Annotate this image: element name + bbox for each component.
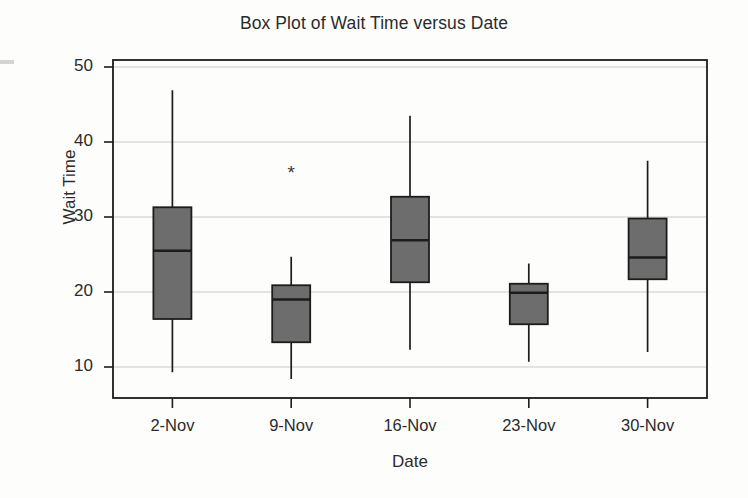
box-rect — [272, 285, 310, 342]
x-tick-label: 23-Nov — [473, 416, 585, 435]
y-axis-title: Wait Time — [60, 112, 80, 262]
box-plot-item — [629, 161, 667, 352]
box-plot-item — [391, 116, 429, 350]
x-tick-label: 2-Nov — [116, 416, 228, 435]
x-tick-label: 30-Nov — [592, 416, 704, 435]
box-rect — [510, 284, 548, 325]
box-rect — [153, 207, 191, 319]
x-axis-title: Date — [113, 452, 707, 472]
x-tick-label: 16-Nov — [354, 416, 466, 435]
outlier-marker: * — [287, 162, 295, 183]
box-rect — [629, 219, 667, 280]
box-plot-figure: Box Plot of Wait Time versus Date * 1020… — [0, 0, 748, 498]
y-tick-label: 20 — [39, 281, 93, 301]
y-tick-label: 10 — [39, 356, 93, 376]
box-plot-item — [153, 90, 191, 372]
box-plot-item — [510, 264, 548, 362]
x-tick-label: 9-Nov — [235, 416, 347, 435]
box-series: * — [153, 90, 666, 379]
box-plot-item: * — [272, 162, 310, 379]
y-axis-ticks — [104, 67, 113, 367]
x-axis-ticks — [172, 398, 647, 408]
y-tick-label: 50 — [39, 56, 93, 76]
